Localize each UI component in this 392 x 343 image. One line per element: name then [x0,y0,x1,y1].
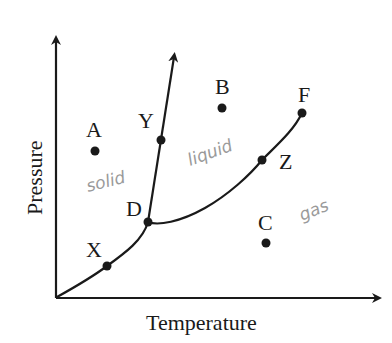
point-y-marker [157,136,166,145]
gas-annotation: gas [296,195,332,225]
point-y-label: Y [138,108,154,133]
point-c-label: C [258,210,273,235]
point-a-label: A [86,117,102,142]
solid-annotation: solid [84,167,127,196]
point-x-label: X [86,237,102,262]
point-d-label: D [126,196,142,221]
point-f-marker [298,109,307,118]
point-d-marker [144,218,153,227]
point-z-marker [258,156,267,165]
liquid-annotation: liquid [185,135,236,170]
point-b-label: B [215,74,230,99]
phase-diagram: ABCDFXYZ Temperature Pressure solid liqu… [0,0,392,343]
x-axis-title: Temperature [146,310,257,335]
phase-diagram-svg: ABCDFXYZ Temperature Pressure solid liqu… [0,0,392,343]
point-f-label: F [298,82,310,107]
sublimation-curve [57,222,148,297]
point-b-marker [218,104,227,113]
point-x-marker [103,262,112,271]
point-a-marker [91,147,100,156]
point-z-label: Z [279,149,292,174]
point-c-marker [262,239,271,248]
y-axis-title: Pressure [22,140,47,215]
